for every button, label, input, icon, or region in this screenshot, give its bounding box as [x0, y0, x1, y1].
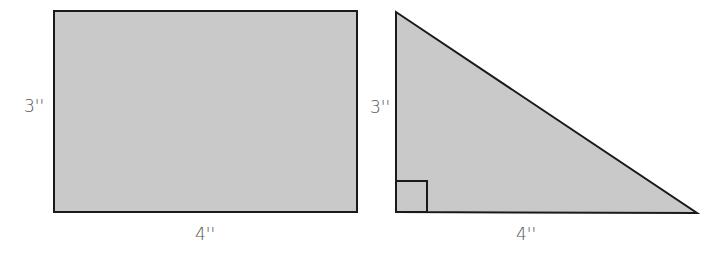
triangle-height-label: 3''	[370, 99, 390, 116]
rectangle-width-label: 4''	[195, 226, 215, 243]
right-triangle-shape	[396, 12, 697, 213]
rectangle-shape	[54, 11, 357, 212]
figures-canvas	[0, 0, 726, 253]
triangle-base-label: 4''	[516, 226, 536, 243]
rectangle-height-label: 3''	[24, 98, 44, 115]
